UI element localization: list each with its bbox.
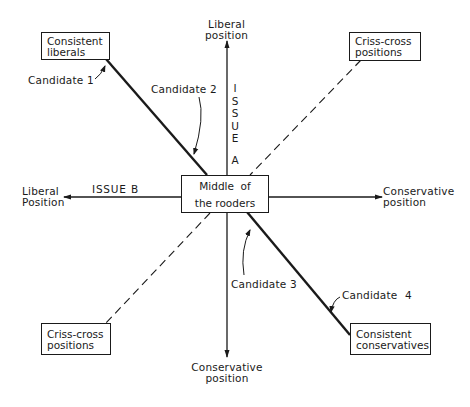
center-box-line1: Middle of <box>182 180 268 192</box>
candidate-1-pointer <box>95 66 105 79</box>
candidate-4-pointer <box>331 297 340 312</box>
criss-cross-line-lower <box>106 213 210 323</box>
issue-b-right-label-line2: position <box>383 197 454 208</box>
consistent-conservative-line <box>247 212 350 335</box>
issue-a-top-label-line2: position <box>205 30 248 41</box>
issue-a-axis-label: I S S U E A <box>229 82 241 166</box>
issue-a-bottom-label: Conservative position <box>190 362 264 384</box>
issue-a-letter: E <box>229 132 241 145</box>
issue-a-letter: S <box>229 107 241 120</box>
criss-cross-top-right-box: Criss-cross positions <box>349 32 421 61</box>
center-box-line2: the rooders <box>182 197 268 209</box>
criss-cross-bottom-left-line2: positions <box>47 340 105 351</box>
issue-a-letter-suffix: A <box>229 154 241 167</box>
candidate-1-label: Candidate 1 <box>28 75 94 86</box>
candidate-2-label: Candidate 2 <box>151 84 217 95</box>
consistent-liberals-box: Consistent liberals <box>41 32 110 60</box>
criss-cross-bottom-left-box: Criss-cross positions <box>41 323 111 355</box>
middle-of-the-road-box: Middle of the rooders <box>181 175 269 213</box>
issue-b-axis-label: ISSUE B <box>92 184 139 195</box>
candidate-3-pointer <box>243 230 250 275</box>
criss-cross-line-upper <box>250 60 361 175</box>
candidate-4-label: Candidate 4 <box>342 290 412 301</box>
consistent-conservatives-line2: conservatives <box>356 340 425 351</box>
issue-a-bottom-label-line2: position <box>190 373 264 384</box>
issue-a-letter: I <box>229 82 241 95</box>
issue-a-letter: U <box>229 120 241 133</box>
consistent-conservatives-box: Consistent conservatives <box>350 323 431 355</box>
issue-b-right-label: Conservative position <box>383 186 454 208</box>
consistent-liberals-line2: liberals <box>47 47 104 58</box>
issue-b-left-label: Liberal Position <box>22 186 64 208</box>
issue-a-top-label: Liberal position <box>205 19 248 41</box>
consistent-liberal-line <box>106 59 207 175</box>
issue-a-letter: S <box>229 95 241 108</box>
candidate-3-label: Candidate 3 <box>231 279 297 290</box>
criss-cross-top-right-line2: positions <box>355 47 415 58</box>
candidate-2-pointer <box>194 97 201 154</box>
issue-b-left-label-line2: Position <box>22 197 64 208</box>
